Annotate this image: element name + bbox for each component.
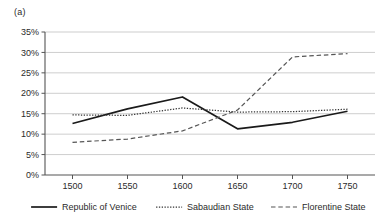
y-tick-label: 5% [26, 150, 39, 160]
chart-figure: (a) 0%5%10%15%20%25%30%35% 1500155016001… [0, 0, 386, 224]
data-series-group [73, 54, 348, 143]
x-tick-label: 1550 [117, 181, 137, 191]
line-chart-canvas: 0%5%10%15%20%25%30%35% 15001550160016501… [0, 0, 386, 224]
y-tick-label: 10% [21, 129, 39, 139]
series-line-0 [73, 97, 348, 129]
gridlines-group [45, 32, 375, 155]
y-tick-label: 15% [21, 109, 39, 119]
legend-label-1: Sabaudian State [187, 202, 254, 212]
chart-legend: Republic of VeniceSabaudian StateFlorent… [31, 202, 365, 212]
y-tick-label: 35% [21, 27, 39, 37]
y-tick-label: 25% [21, 68, 39, 78]
x-tick-label: 1750 [337, 181, 357, 191]
y-tick-label: 20% [21, 88, 39, 98]
y-axis-ticks-group: 0%5%10%15%20%25%30%35% [21, 27, 45, 180]
x-tick-label: 1600 [172, 181, 192, 191]
x-axis-ticks-group: 150015501600165017001750 [62, 175, 357, 191]
axes-group [45, 32, 375, 175]
x-tick-label: 1500 [62, 181, 82, 191]
x-tick-label: 1650 [227, 181, 247, 191]
y-tick-label: 0% [26, 170, 39, 180]
legend-label-2: Florentine State [302, 202, 366, 212]
legend-label-0: Republic of Venice [62, 202, 137, 212]
x-tick-label: 1700 [282, 181, 302, 191]
series-line-2 [73, 54, 348, 143]
y-tick-label: 30% [21, 48, 39, 58]
